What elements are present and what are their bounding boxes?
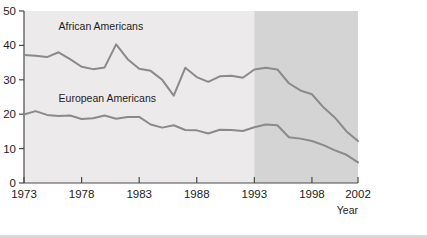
series-label-european-americans: European Americans [59,92,156,104]
x-tick-label: 2002 [345,188,371,200]
y-tick-label: 50 [3,5,16,17]
bottom-divider [0,235,427,238]
x-axis-title: Year [337,204,359,216]
x-tick-label: 1988 [184,188,210,200]
chart-figure: 01020304050 1973197819831988199319982002… [0,0,427,238]
x-tick-label: 1973 [11,188,37,200]
y-tick-label: 40 [3,39,16,51]
x-tick-label: 1983 [126,188,152,200]
x-tick-label: 1978 [69,188,95,200]
y-tick-label: 10 [3,143,16,155]
y-axis: 01020304050 [3,5,24,189]
y-tick-label: 20 [3,108,16,120]
series-label-african-americans: African Americans [59,20,144,32]
x-tick-label: 1998 [299,188,325,200]
y-tick-label: 30 [3,74,16,86]
x-tick-label: 1993 [242,188,268,200]
shaded-region-late [254,11,358,183]
line-chart: 01020304050 1973197819831988199319982002… [0,0,427,238]
